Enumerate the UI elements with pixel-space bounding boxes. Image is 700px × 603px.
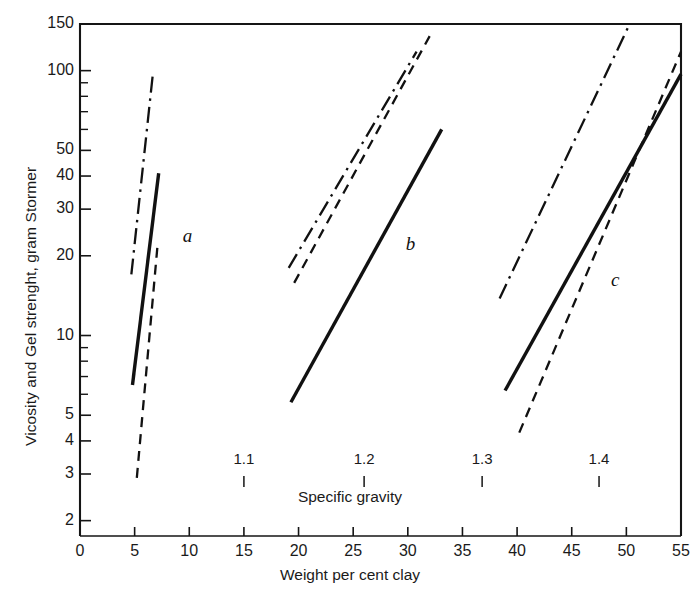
axis-ticks — [80, 24, 626, 536]
plot-frame — [80, 24, 681, 536]
plot-area — [0, 0, 700, 603]
plot-border — [80, 24, 681, 536]
series-line-b-dashed — [294, 36, 429, 283]
series-line-a-dashed — [137, 245, 158, 478]
x-axis-title: Weight per cent clay — [0, 566, 700, 584]
chart-root: Vicosity and Gel strenght, gram Stormer … — [0, 0, 700, 603]
series-line-b-dash-dot — [289, 52, 417, 268]
y-axis-title: Vicosity and Gel strenght, gram Stormer — [22, 167, 40, 446]
series-line-b-solid — [291, 129, 442, 402]
series-line-a-solid — [132, 173, 158, 385]
secondary-x-axis-title: Specific gravity — [200, 488, 500, 506]
series-line-c-dash-dot — [500, 24, 630, 298]
data-series-group — [131, 24, 681, 478]
series-line-c-dashed — [519, 52, 681, 433]
